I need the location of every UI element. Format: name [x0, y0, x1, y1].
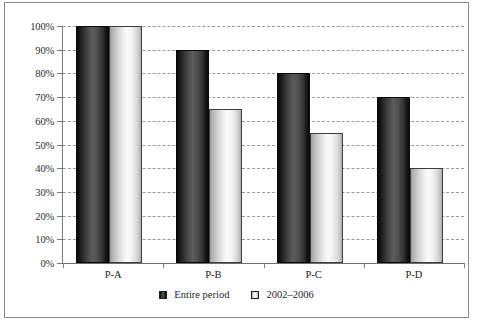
- x-tick-mark-2: [264, 263, 265, 268]
- x-tick-mark-1: [163, 263, 164, 268]
- y-axis-tick-label: 20%: [35, 210, 54, 221]
- y-axis-tick-label: 30%: [35, 186, 54, 197]
- y-axis-tick-label: 70%: [35, 92, 54, 103]
- y-axis-tick-label: 80%: [35, 68, 54, 79]
- legend-swatch-light-icon: [251, 291, 259, 299]
- bar-p-b-series-2: [209, 109, 242, 263]
- legend-swatch-dark-icon: [159, 291, 167, 299]
- legend-label: Entire period: [174, 289, 229, 300]
- x-tick-mark-4: [464, 263, 465, 268]
- bar-p-d-series-1: [377, 97, 410, 263]
- bar-p-c-series-2: [310, 133, 343, 263]
- y-axis-tick-label: 10%: [35, 234, 54, 245]
- bar-p-a-series-2: [109, 26, 142, 263]
- legend-entry-2[interactable]: 2002–2006: [251, 289, 313, 300]
- plot-area: [63, 26, 464, 263]
- bar-p-b-series-1: [176, 50, 209, 263]
- x-axis-category-label-p-d: P-D: [405, 269, 422, 280]
- x-axis-category-label-p-a: P-A: [105, 269, 122, 280]
- y-axis-tick-label: 40%: [35, 163, 54, 174]
- bar-p-d-series-2: [410, 168, 443, 263]
- legend-entry-1[interactable]: Entire period: [159, 289, 229, 300]
- bar-p-c-series-1: [277, 73, 310, 263]
- x-tick-mark-0: [63, 263, 64, 268]
- y-axis-tick-label: 90%: [35, 44, 54, 55]
- y-axis-tick-label: 100%: [30, 21, 54, 32]
- bar-p-a-series-1: [76, 26, 109, 263]
- x-axis-category-label-p-c: P-C: [305, 269, 321, 280]
- y-axis-tick-label: 60%: [35, 115, 54, 126]
- x-axis-category-label-p-b: P-B: [205, 269, 221, 280]
- y-axis-tick-label: 0%: [40, 258, 54, 269]
- chart-frame: 0%10%20%30%40%50%60%70%80%90%100% P-AP-B…: [4, 2, 469, 318]
- legend-label: 2002–2006: [266, 289, 313, 300]
- y-axis-tick-label: 50%: [35, 139, 54, 150]
- x-tick-mark-3: [364, 263, 365, 268]
- chart-legend: Entire period2002–2006: [5, 289, 468, 300]
